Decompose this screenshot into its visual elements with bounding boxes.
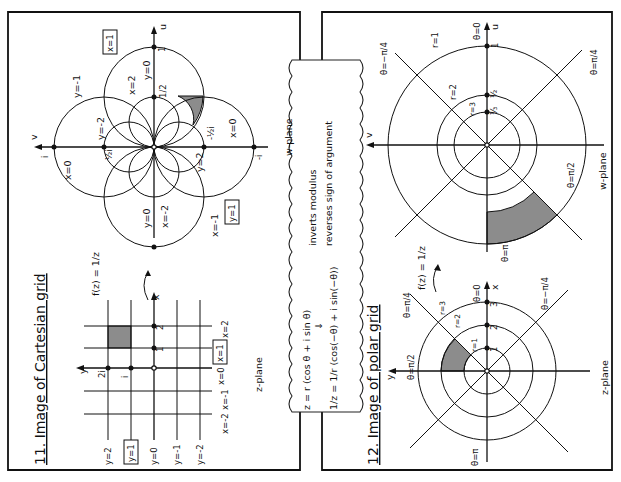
callout-cloud: z = r (cos θ + i sin θ) ⇓ 1/z = 1/r (cos… (289, 60, 363, 412)
section12-title: 12. Image of polar grid (365, 304, 381, 465)
svg-text:2: 2 (489, 325, 499, 330)
section12-w-plane: u v 1 ½ ⅓ r=1 r=2 r=3 θ=0 θ=−π/4 θ=π/4 θ… (363, 22, 608, 262)
svg-text:-½i: -½i (206, 126, 216, 140)
svg-text:r=2: r=2 (448, 84, 458, 100)
svg-text:x=2: x=2 (126, 75, 137, 95)
section11-mapping: f(z) = 1/z (90, 252, 151, 300)
callout-note1: inverts modulus (307, 169, 318, 246)
diagram-page: z = r (cos θ + i sin θ) ⇓ 1/z = 1/r (cos… (0, 0, 621, 482)
svg-text:θ=π: θ=π (470, 449, 480, 466)
svg-text:x=2: x=2 (220, 320, 230, 338)
svg-text:½: ½ (489, 90, 499, 98)
svg-text:θ=π/2: θ=π/2 (406, 354, 416, 380)
svg-text:r=2: r=2 (453, 314, 462, 328)
svg-text:x=0: x=0 (227, 118, 238, 138)
svg-text:θ=0: θ=0 (472, 284, 482, 302)
svg-text:1: 1 (490, 43, 500, 48)
svg-text:i: i (120, 376, 130, 378)
svg-text:x=-2: x=-2 (220, 413, 230, 434)
svg-text:v: v (28, 134, 39, 140)
svg-text:r=1: r=1 (470, 338, 479, 352)
svg-text:z-plane: z-plane (253, 357, 264, 392)
svg-text:y=2: y=2 (103, 447, 113, 465)
svg-text:-i: -i (254, 155, 264, 160)
svg-text:y=0: y=0 (149, 447, 159, 465)
svg-text:y=-2: y=-2 (95, 117, 106, 140)
svg-text:y=0: y=0 (141, 208, 152, 228)
section11-z-plane: x y 1 2 i 2i y=2 y=1 y=0 y=-1 y=-2 x=-2 … (76, 292, 264, 465)
svg-text:w-plane: w-plane (597, 152, 608, 190)
z-ray-diag2 (410, 290, 568, 448)
svg-text:r=1: r=1 (430, 32, 440, 48)
svg-text:y=2: y=2 (194, 152, 205, 172)
svg-text:f(z) = 1/z: f(z) = 1/z (416, 246, 427, 290)
callout-arrow: ⇓ (313, 322, 324, 330)
z-ray-diag1 (410, 294, 568, 452)
svg-text:1: 1 (155, 347, 165, 352)
svg-text:θ=−π/4: θ=−π/4 (379, 42, 389, 75)
section12-z-plane: x y 1 2 3 r=1 r=2 r=3 θ=0 θ=π/4 θ=π/2 θ=… (384, 277, 610, 466)
callout-line2: 1/z = 1/r (cos(−θ) + i sin(−θ)) (328, 267, 339, 410)
svg-text:v: v (363, 132, 374, 138)
svg-text:⅓: ⅓ (489, 107, 499, 115)
svg-text:f(z) = 1/z: f(z) = 1/z (90, 252, 101, 296)
svg-text:w-plane: w-plane (283, 118, 294, 156)
section11-title: 11. Image of Cartesian grid (32, 273, 48, 465)
section11-w-plane: u v 1 1/2 i ½i -½i -i x=1 x=2 y=0 y=-1 y… (28, 24, 294, 250)
mapping-arrow-icon (144, 272, 148, 300)
svg-text:1: 1 (157, 47, 167, 52)
svg-text:y=-1: y=-1 (172, 444, 182, 465)
shaded-unit-square (108, 326, 131, 348)
svg-text:y=-1: y=-1 (71, 75, 82, 98)
svg-text:y=1: y=1 (126, 444, 136, 462)
svg-text:u: u (157, 24, 168, 30)
svg-text:x=-2: x=-2 (159, 205, 170, 228)
svg-text:½i: ½i (104, 149, 114, 160)
svg-text:1/2: 1/2 (158, 84, 168, 98)
svg-text:x: x (150, 294, 161, 300)
svg-text:x: x (489, 284, 500, 290)
svg-text:θ=π/4: θ=π/4 (402, 292, 412, 318)
svg-text:θ=π/4: θ=π/4 (589, 49, 599, 75)
svg-text:y=-2: y=-2 (195, 444, 205, 465)
svg-text:θ=−π/4: θ=−π/4 (540, 277, 550, 310)
svg-text:y: y (384, 374, 395, 380)
svg-text:y: y (77, 368, 88, 374)
shaded-polar-image-region (487, 192, 557, 244)
svg-text:x=-1: x=-1 (209, 214, 220, 237)
callout-note2: reverses sign of argument (323, 121, 334, 246)
svg-text:x=-1: x=-1 (220, 389, 230, 410)
svg-text:u: u (489, 24, 500, 30)
svg-text:r=3: r=3 (438, 301, 447, 315)
svg-text:θ=0: θ=0 (472, 22, 482, 40)
svg-text:x=0: x=0 (216, 367, 226, 385)
svg-text:i: i (40, 156, 50, 158)
y-axis-arrow-icon (388, 368, 396, 374)
section12-mapping: f(z) = 1/z (416, 246, 441, 292)
callout-line1: z = r (cos θ + i sin θ) (301, 310, 312, 410)
svg-text:2i: 2i (97, 370, 107, 378)
svg-text:x=0: x=0 (62, 160, 73, 180)
v-axis-arrow-icon (34, 144, 42, 150)
svg-text:y=1: y=1 (227, 204, 237, 222)
svg-text:2: 2 (155, 325, 165, 330)
svg-text:1: 1 (489, 347, 499, 352)
svg-text:x=1: x=1 (105, 34, 115, 52)
svg-text:x=1: x=1 (215, 344, 225, 362)
svg-text:3: 3 (489, 302, 499, 307)
svg-text:y=0: y=0 (141, 60, 152, 80)
svg-text:θ=π/2: θ=π/2 (566, 162, 576, 188)
svg-text:z-plane: z-plane (599, 360, 610, 395)
svg-text:r=3: r=3 (468, 102, 477, 116)
shaded-image-region (178, 96, 203, 125)
shaded-polar-sector (441, 339, 471, 371)
v-axis-arrow-icon (366, 142, 374, 148)
svg-text:θ=π: θ=π (500, 245, 510, 262)
